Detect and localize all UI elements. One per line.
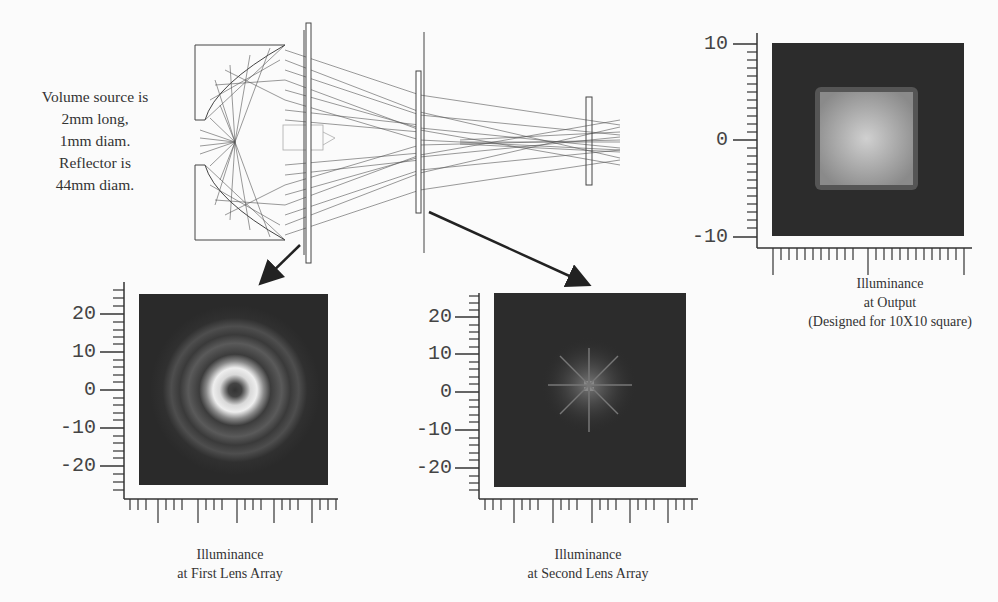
first-lens-array [304,23,311,263]
second-array-caption: Illuminance at Second Lens Array [488,545,688,583]
output-plot [733,33,972,275]
caption-line: at Output [790,293,990,312]
second-lens-array [416,32,424,253]
first-y-tick: 10 [36,340,96,363]
second-y-tick: -10 [392,418,452,441]
source-line: Volume source is [20,86,170,108]
first-array-caption: Illuminance at First Lens Array [130,545,330,583]
output-y-tick: 0 [668,128,728,151]
caption-line: Illuminance [790,274,990,293]
first-y-tick: 0 [36,378,96,401]
first-y-tick: 20 [36,302,96,325]
source-line: 44mm diam. [20,174,170,196]
light-rays [200,45,620,240]
second-y-tick: -20 [392,456,452,479]
source-line: Reflector is [20,152,170,174]
output-y-tick: -10 [668,225,728,248]
caption-line: Illuminance [488,545,688,564]
caption-line: at First Lens Array [130,564,330,583]
reflector [195,45,285,240]
source-line: 1mm diam. [20,130,170,152]
second-y-tick: 0 [392,380,452,403]
second-y-tick: 10 [392,342,452,365]
caption-line: Illuminance [130,545,330,564]
second-y-tick: 20 [392,305,452,328]
source-description: Volume source is 2mm long, 1mm diam. Ref… [20,86,170,196]
caption-line: at Second Lens Array [488,564,688,583]
output-y-tick: 10 [668,32,728,55]
first-y-tick: -20 [36,454,96,477]
output-caption: Illuminance at Output (Designed for 10X1… [790,274,990,331]
second-array-plot [455,293,698,523]
caption-line: (Designed for 10X10 square) [790,312,990,331]
first-y-tick: -10 [36,416,96,439]
arrow-to-first-array [262,245,300,282]
first-array-plot [100,282,338,523]
arrow-to-second-array [429,212,587,284]
source-line: 2mm long, [20,108,170,130]
